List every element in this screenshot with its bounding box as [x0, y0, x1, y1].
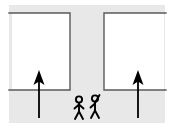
diagram-canvas: Corridor evacuation schematic: [0, 0, 176, 128]
room-right: [104, 13, 164, 90]
corridor-evacuation-diagram: [0, 0, 176, 128]
